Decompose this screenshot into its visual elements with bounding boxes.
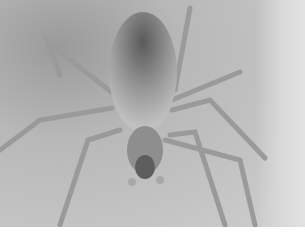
spider-illustration [0, 0, 305, 233]
spider-pedipalp-left [128, 178, 136, 186]
spider-abdomen [109, 12, 177, 132]
spider-head [135, 155, 155, 179]
spider-pedipalp-right [156, 176, 164, 184]
spider-photo [0, 0, 305, 233]
bottom-border [0, 227, 305, 233]
